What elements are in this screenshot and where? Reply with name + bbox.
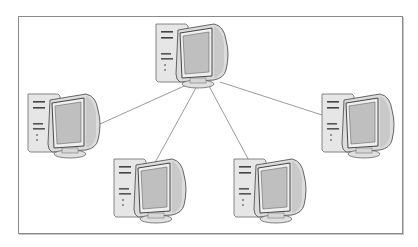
computer-node-left — [24, 90, 104, 160]
computer-node-center — [152, 20, 232, 90]
link-center-right — [220, 82, 322, 115]
desktop-computer-icon — [230, 155, 310, 225]
computer-node-bottom-left — [110, 155, 190, 225]
desktop-computer-icon — [110, 155, 190, 225]
desktop-computer-icon — [318, 90, 398, 160]
desktop-computer-icon — [152, 20, 232, 90]
desktop-computer-icon — [24, 90, 104, 160]
computer-node-right — [318, 90, 398, 160]
computer-node-bottom-right — [230, 155, 310, 225]
